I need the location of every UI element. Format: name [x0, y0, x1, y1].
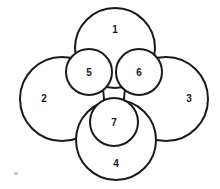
label-lobe-4: 4: [113, 158, 119, 169]
circles-diagram: 1 2 3 4 5 6 7: [0, 0, 220, 189]
label-circle-5: 5: [86, 67, 92, 78]
label-lobe-3: 3: [186, 93, 192, 104]
diagram-canvas: 1 2 3 4 5 6 7: [0, 0, 220, 189]
label-circle-7: 7: [111, 117, 117, 128]
label-circle-6: 6: [136, 67, 142, 78]
scan-speck-artifact: [14, 172, 18, 175]
label-lobe-2: 2: [41, 93, 47, 104]
label-lobe-1: 1: [112, 24, 118, 35]
